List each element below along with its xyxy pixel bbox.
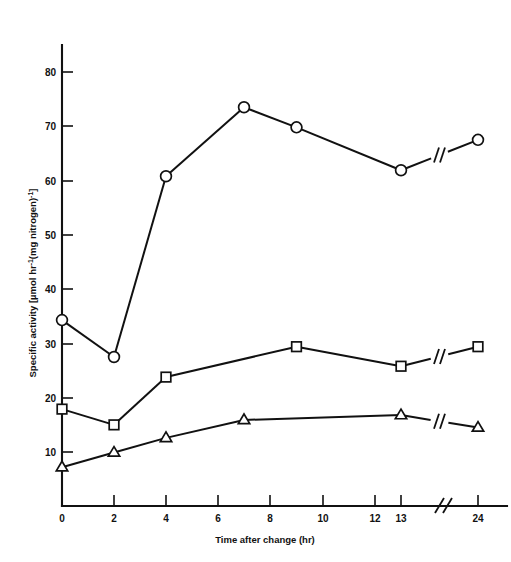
series-segment xyxy=(62,320,114,357)
data-point-circle-marker xyxy=(291,122,302,133)
series-layer xyxy=(56,102,483,471)
y-axis-title-unit-denominator: (mg nitrogen) xyxy=(27,198,38,259)
data-point-circle-marker xyxy=(161,171,172,182)
x-axis-title: Time after change (hr) xyxy=(215,534,315,545)
series-segment xyxy=(448,423,478,428)
series-segment xyxy=(62,409,114,425)
data-point-square-marker xyxy=(109,420,119,430)
y-tick-label-20: 20 xyxy=(45,393,57,404)
series-segment xyxy=(62,453,114,468)
chart-plot-area: Specific activity [µmol hr-1(mg nitrogen… xyxy=(0,0,511,562)
y-tick-label-70: 70 xyxy=(45,121,57,132)
data-point-triangle-marker xyxy=(238,414,249,424)
x-tick-label-10: 10 xyxy=(317,513,329,524)
y-axis-title: Specific activity [µmol hr-1(mg nitrogen… xyxy=(27,189,38,378)
x-tick-label-2: 2 xyxy=(111,513,117,524)
series-segment xyxy=(297,127,402,170)
series-segment xyxy=(166,347,297,377)
data-point-circle-marker xyxy=(239,102,250,113)
x-axis-ticks xyxy=(62,495,478,506)
axes xyxy=(62,45,507,506)
chart-figure: Specific activity [µmol hr-1(mg nitrogen… xyxy=(0,0,511,562)
y-axis-title-prefix: Specific activity [ xyxy=(27,299,38,377)
data-point-square-marker xyxy=(57,404,67,414)
x-tick-label-12: 12 xyxy=(369,513,381,524)
data-point-square-marker xyxy=(161,372,171,382)
data-point-circle-marker xyxy=(396,165,407,176)
x-tick-label-6: 6 xyxy=(215,513,221,524)
series-segment xyxy=(114,438,166,453)
y-tick-label-50: 50 xyxy=(45,230,57,241)
x-tick-label-4: 4 xyxy=(163,513,169,524)
series-segment xyxy=(114,176,166,357)
series-segment xyxy=(244,107,297,127)
y-tick-label-40: 40 xyxy=(45,284,57,295)
svg-text:Specific activity [µmol hr-1(m: Specific activity [µmol hr-1(mg nitrogen… xyxy=(27,189,38,378)
y-tick-label-60: 60 xyxy=(45,176,57,187)
y-tick-label-30: 30 xyxy=(45,339,57,350)
x-tick-label-13: 13 xyxy=(395,513,407,524)
series-segment xyxy=(166,420,244,438)
y-tick-label-80: 80 xyxy=(45,67,57,78)
y-axis-title-unit-numerator: µmol hr xyxy=(27,265,38,300)
series-segment xyxy=(166,107,244,176)
data-point-circle-marker xyxy=(57,315,68,326)
square-series xyxy=(57,342,483,430)
data-point-square-marker xyxy=(292,342,302,352)
x-axis-tick-labels: 0 2 4 6 8 10 12 13 24 xyxy=(59,513,484,524)
y-axis-tick-labels: 80 70 60 50 40 30 20 10 xyxy=(45,67,57,458)
data-point-triangle-marker xyxy=(395,409,406,419)
series-segment xyxy=(114,377,166,425)
x-tick-label-8: 8 xyxy=(267,513,273,524)
circle-series xyxy=(57,102,484,363)
series-segment xyxy=(297,347,402,367)
series-break-icon xyxy=(434,349,445,364)
data-point-square-marker xyxy=(473,342,483,352)
series-break-icon xyxy=(434,414,445,429)
series-break-icon xyxy=(434,148,445,163)
data-point-circle-marker xyxy=(473,134,484,145)
x-tick-label-0: 0 xyxy=(59,513,65,524)
y-axis-title-suffix: ] xyxy=(27,189,38,192)
y-tick-label-10: 10 xyxy=(45,447,57,458)
series-segment xyxy=(244,415,401,420)
y-axis-ticks xyxy=(62,72,73,452)
data-point-square-marker xyxy=(396,361,406,371)
x-tick-label-24: 24 xyxy=(472,513,484,524)
data-point-circle-marker xyxy=(109,352,120,363)
